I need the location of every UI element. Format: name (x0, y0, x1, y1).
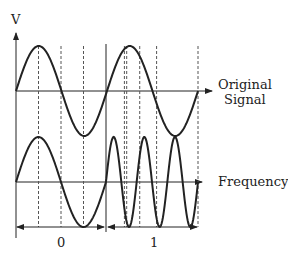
bit-0-label: 0 (57, 235, 65, 250)
original-signal-label-line2: Signal (224, 92, 266, 107)
frequency-label: Frequency (218, 174, 288, 189)
bit-1-label: 1 (150, 235, 158, 250)
original-signal-label-line1: Original (218, 77, 272, 92)
y-axis-label: V (10, 12, 21, 27)
fsk-diagram: V 0 1 Original Signal Frequency (0, 0, 288, 255)
